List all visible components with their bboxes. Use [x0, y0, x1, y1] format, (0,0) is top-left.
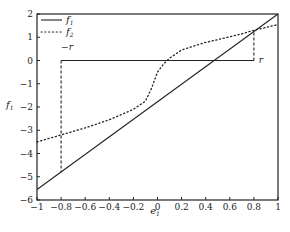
- axis-ticks: [37, 14, 278, 200]
- y-tick-label: −1: [20, 79, 33, 89]
- y-tick-label: −6: [20, 195, 34, 205]
- y-tick-label: −5: [20, 172, 34, 182]
- legend-label-f1: f1: [65, 14, 74, 26]
- y-tick-label: −3: [20, 125, 34, 135]
- x-tick-label: 0.6: [223, 202, 238, 212]
- series-f1: [37, 14, 278, 190]
- x-tick-label: 0.4: [199, 202, 214, 212]
- y-tick-label: 0: [27, 56, 33, 66]
- x-tick-label: −0.2: [122, 202, 144, 212]
- x-tick-label: −0.6: [74, 202, 96, 212]
- plot-border: [37, 14, 278, 200]
- x-tick-label: 1: [275, 202, 281, 212]
- y-axis-label: f1: [5, 99, 14, 111]
- annotations: −rr: [61, 31, 264, 172]
- tick-labels: −1−0.8−0.6−0.4−0.200.20.40.60.81210−1−2−…: [20, 9, 281, 212]
- y-tick-label: −4: [20, 149, 34, 159]
- annotation-label: −r: [61, 42, 74, 52]
- plot-area: [37, 14, 278, 200]
- series-f2: [37, 25, 278, 142]
- series-layer: [37, 14, 278, 190]
- y-tick-label: 1: [27, 32, 33, 42]
- chart: −1−0.8−0.6−0.4−0.200.20.40.60.81210−1−2−…: [0, 0, 290, 232]
- y-tick-label: −2: [20, 102, 33, 112]
- x-tick-label: 0.2: [174, 202, 188, 212]
- annotation-label: r: [259, 55, 264, 65]
- x-tick-label: −0.8: [50, 202, 72, 212]
- x-tick-label: 0.8: [247, 202, 262, 212]
- legend: f1f2: [41, 14, 74, 38]
- x-tick-label: −0.4: [98, 202, 120, 212]
- legend-label-f2: f2: [65, 26, 74, 38]
- y-tick-label: 2: [27, 9, 33, 19]
